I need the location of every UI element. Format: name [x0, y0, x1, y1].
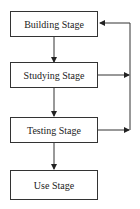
- node-label: Use Stage: [34, 180, 74, 191]
- node-building-stage: Building Stage: [10, 11, 98, 37]
- node-testing-stage: Testing Stage: [10, 117, 98, 143]
- node-label: Studying Stage: [24, 70, 85, 81]
- node-use-stage: Use Stage: [10, 170, 98, 200]
- node-label: Testing Stage: [27, 125, 81, 136]
- node-studying-stage: Studying Stage: [10, 62, 98, 88]
- node-label: Building Stage: [24, 19, 84, 30]
